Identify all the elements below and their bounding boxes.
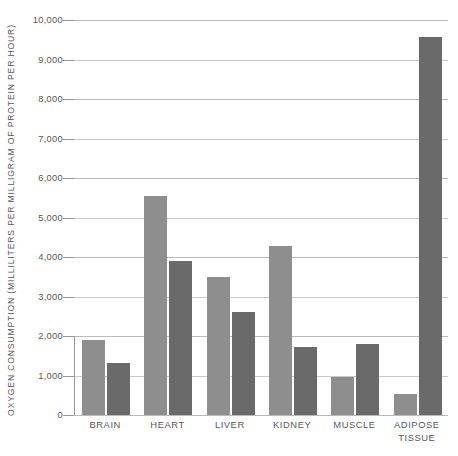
y-axis-tick bbox=[63, 218, 74, 219]
bar bbox=[394, 394, 417, 415]
y-axis-tick bbox=[63, 178, 74, 179]
bar bbox=[356, 344, 379, 415]
bar bbox=[169, 261, 192, 415]
y-axis-tick bbox=[63, 99, 74, 100]
y-axis-tick bbox=[63, 20, 74, 21]
y-axis-tick-labels: 10,0009,0008,0007,0006,0005,0004,0003,00… bbox=[0, 20, 63, 415]
y-axis-tick-label: 10,000 bbox=[5, 15, 63, 25]
y-axis-tick-label: 9,000 bbox=[5, 55, 63, 65]
x-axis-category-label: LIVER bbox=[199, 419, 261, 432]
x-axis-category-labels: BRAINHEARTLIVERKIDNEYMUSCLEADIPOSE TISSU… bbox=[74, 419, 448, 456]
bar bbox=[207, 277, 230, 415]
x-axis-category-label: HEART bbox=[136, 419, 198, 432]
x-axis-category-label: KIDNEY bbox=[261, 419, 323, 432]
y-axis-tick-label: 5,000 bbox=[5, 213, 63, 223]
y-axis-tick-label: 8,000 bbox=[5, 94, 63, 104]
y-axis-tick-label: 7,000 bbox=[5, 134, 63, 144]
y-axis-tick-label: 2,000 bbox=[5, 331, 63, 341]
bar bbox=[269, 246, 292, 415]
y-axis-tick bbox=[63, 60, 74, 61]
bar bbox=[232, 312, 255, 415]
y-axis-tick-label: 6,000 bbox=[5, 173, 63, 183]
y-axis-tick-label: 4,000 bbox=[5, 252, 63, 262]
bar-series-group bbox=[74, 20, 448, 415]
y-axis-tick bbox=[63, 139, 74, 140]
x-axis-category-label: MUSCLE bbox=[323, 419, 385, 432]
y-axis-tick bbox=[63, 376, 74, 377]
y-axis-tick-label: 0 bbox=[5, 410, 63, 420]
y-axis-tick bbox=[63, 336, 74, 337]
bar bbox=[331, 377, 354, 415]
plot-area bbox=[74, 20, 448, 415]
y-axis-tick bbox=[63, 257, 74, 258]
y-axis-tick-label: 1,000 bbox=[5, 371, 63, 381]
gridline bbox=[74, 415, 448, 416]
y-axis-tick bbox=[63, 297, 74, 298]
bar bbox=[294, 347, 317, 415]
x-axis-category-label: BRAIN bbox=[74, 419, 136, 432]
bar bbox=[82, 340, 105, 415]
y-axis-tick-label: 3,000 bbox=[5, 292, 63, 302]
x-axis-category-label: ADIPOSE TISSUE bbox=[386, 419, 448, 444]
y-axis-tick bbox=[63, 415, 74, 416]
bar-chart: OXYGEN CONSUMPTION (MILLILITERS PER MILL… bbox=[0, 0, 458, 456]
bar bbox=[419, 37, 442, 415]
bar bbox=[144, 196, 167, 415]
bar bbox=[107, 363, 130, 415]
